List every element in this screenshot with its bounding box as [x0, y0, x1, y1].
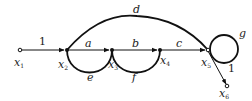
gain-label-e: e — [87, 71, 94, 84]
gain-label-a: a — [85, 37, 92, 50]
node-x3 — [110, 48, 114, 52]
gain-label-1: 1 — [39, 35, 46, 48]
node-label-x2: x2 — [58, 58, 68, 71]
gain-label-c: c — [176, 37, 182, 50]
node-x1 — [18, 48, 22, 52]
gain-label-d: d — [133, 3, 140, 16]
node-x2 — [65, 48, 69, 52]
edge-x4-x3-f — [112, 50, 160, 73]
node-label-x3: x3 — [108, 58, 118, 71]
node-label-x1: x1 — [14, 56, 24, 69]
gain-label-b: b — [132, 37, 139, 50]
node-label-x5: x5 — [201, 56, 211, 69]
gain-label-x5-x6: 1 — [228, 62, 235, 75]
node-x6 — [225, 84, 229, 88]
node-label-x6: x6 — [219, 87, 229, 100]
node-x4 — [158, 48, 162, 52]
edge-x3-x2-e — [67, 50, 112, 73]
self-loop-g — [210, 35, 238, 63]
signal-flow-graph: 1 a b c d e f g 1 x1 x2 x3 x4 x5 x6 — [0, 0, 252, 101]
node-x5 — [206, 48, 210, 52]
node-label-x4: x4 — [160, 54, 170, 67]
gain-label-g: g — [239, 27, 246, 40]
